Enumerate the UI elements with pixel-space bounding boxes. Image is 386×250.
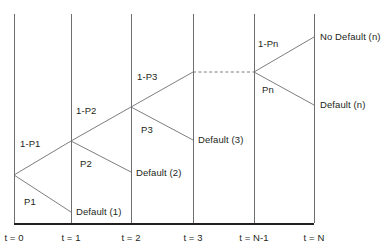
axis-tick-label-tNm1: t = N-1	[239, 232, 268, 243]
branch-label-pn: Pn	[262, 84, 274, 95]
branch-label-p1: P1	[24, 196, 36, 207]
branch-label-p2: P2	[80, 158, 92, 169]
axis-tick-label-t3: t = 3	[183, 232, 202, 243]
branch-label-1-p2: 1-P2	[76, 105, 96, 116]
outcome-label-default-3: Default (3)	[198, 134, 243, 145]
axis-tick-label-t1: t = 1	[61, 232, 80, 243]
default-probability-tree-diagram: 1-P1 P1 1-P2 P2 1-P3 P3 1-Pn Pn Default …	[0, 0, 386, 250]
outcome-label-default-2: Default (2)	[136, 167, 181, 178]
branch-root-to-default1	[14, 175, 71, 212]
branch-label-p3: P3	[141, 124, 153, 135]
tree-branches	[14, 37, 314, 212]
axis-tick-label-t0: t = 0	[4, 232, 23, 243]
branch-label-1-pn: 1-Pn	[258, 38, 278, 49]
outcome-label-no-default-n: No Default (n)	[320, 31, 381, 42]
branch-label-1-p3: 1-P3	[137, 71, 157, 82]
branch-label-1-p1: 1-P1	[20, 138, 40, 149]
outcome-label-default-n: Default (n)	[320, 99, 365, 110]
outcome-label-default-1: Default (1)	[76, 206, 121, 217]
axis-tick-label-t2: t = 2	[121, 232, 140, 243]
axis-tick-label-tN: t = N	[304, 232, 325, 243]
